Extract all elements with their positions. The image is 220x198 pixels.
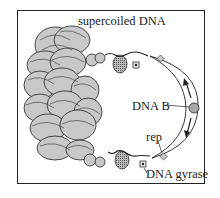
label-supercoiled-dna: supercoiled DNA bbox=[78, 15, 166, 28]
label-dna-b: DNA B bbox=[132, 100, 170, 113]
rep-protein-bottom bbox=[160, 153, 167, 160]
arrowhead-up-icon bbox=[183, 78, 189, 86]
tight-coil-top bbox=[113, 55, 127, 73]
twisted-duplex-bottom bbox=[108, 151, 150, 156]
label-rep: rep bbox=[146, 131, 162, 144]
twisted-duplex-top bbox=[105, 52, 148, 57]
supercoiled-dna-mass bbox=[24, 26, 102, 160]
dna-b-protein bbox=[189, 103, 199, 113]
label-dna-gyrase: DNA gyrase bbox=[146, 168, 208, 181]
